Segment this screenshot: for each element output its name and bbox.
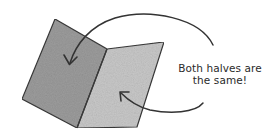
caption-line-1: Both halves are (175, 62, 265, 74)
folded-card-diagram: Both halves are the same! (0, 0, 276, 139)
caption-text: Both halves are the same! (175, 62, 265, 86)
caption-line-2: the same! (175, 74, 265, 86)
